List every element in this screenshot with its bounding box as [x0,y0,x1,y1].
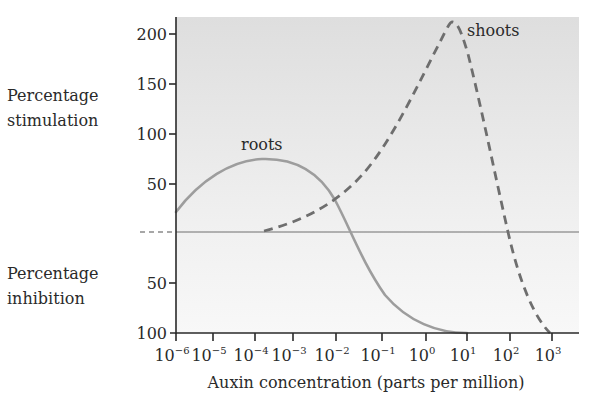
auxin-chart: 200 150 100 50 50 100 10−610−510−410−310… [0,0,591,411]
x-tick-label: 10−3 [271,345,306,365]
x-tick-label: 10−1 [360,345,395,365]
y-tick-inhibition-50: 50 [147,274,167,293]
x-tick-label: 10−6 [154,345,189,365]
x-tick-label: 10−4 [233,345,268,365]
roots-annotation: roots [241,135,283,154]
shoots-annotation: shoots [467,21,519,40]
x-tick-label: 100 [409,345,436,365]
y-label-inhibition-line1: Percentage [7,264,99,283]
y-tick-100: 100 [136,125,167,144]
y-tick-150: 150 [136,75,167,94]
x-tick-labels: 10−610−510−410−310−210−1100101102103 [154,345,561,365]
x-tick-label: 103 [535,345,562,365]
y-label-inhibition-line2: inhibition [7,289,85,308]
x-ticks [176,333,552,341]
x-axis-label: Auxin concentration (parts per million) [207,373,525,392]
x-tick-label: 102 [493,345,520,365]
y-label-stimulation-line1: Percentage [7,86,99,105]
y-tick-labels: 200 150 100 50 50 100 [136,25,167,343]
y-label-stimulation-line2: stimulation [7,111,98,130]
x-tick-label: 10−5 [191,345,226,365]
x-tick-label: 101 [450,345,477,365]
y-tick-200: 200 [136,25,167,44]
y-tick-50: 50 [147,175,167,194]
x-tick-label: 10−2 [314,345,349,365]
y-tick-inhibition-100: 100 [136,324,167,343]
y-ticks [169,34,176,283]
